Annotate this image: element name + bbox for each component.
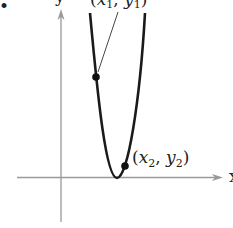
point1-label: (x1, y1)	[90, 0, 147, 11]
bullet: •	[0, 0, 9, 16]
y-axis-label: y	[54, 0, 65, 6]
parabola-diagram: • y x (x1, y1) (x2, y2)	[0, 0, 233, 228]
x-axis-label: x	[229, 166, 233, 186]
point1-leader-line	[98, 12, 118, 72]
point1-marker	[92, 73, 100, 81]
point2-marker	[121, 162, 129, 170]
y-axis	[58, 9, 65, 222]
point2-label: (x2, y2)	[132, 147, 189, 170]
